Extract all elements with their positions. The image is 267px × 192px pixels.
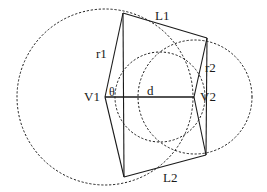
label-r2: r2	[205, 61, 216, 74]
label-theta: θ	[109, 86, 115, 98]
segment-r1-lower	[105, 97, 124, 177]
diagram-canvas	[0, 0, 267, 192]
label-d: d	[147, 84, 154, 97]
label-L2: L2	[163, 171, 177, 184]
geometry-diagram: L1 r1 r2 V1 V2 θ d L2	[0, 0, 267, 192]
label-V1: V1	[84, 90, 100, 103]
label-r1: r1	[96, 47, 107, 60]
edge-left	[123, 13, 124, 177]
label-V2: V2	[200, 90, 216, 103]
label-L1: L1	[155, 9, 169, 22]
